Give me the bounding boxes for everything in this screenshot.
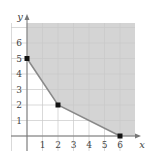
x-tick-label: 4: [86, 140, 92, 150]
vertex-point: [25, 56, 30, 61]
y-axis-arrow-icon: [25, 14, 30, 20]
y-tick-label: 6: [16, 38, 22, 48]
y-tick-label: 3: [16, 85, 22, 95]
y-tick-label: 2: [16, 100, 22, 110]
shaded-region: [27, 23, 135, 136]
x-tick-label: 2: [55, 140, 61, 150]
vertex-point: [56, 103, 61, 108]
feasible-region-chart: 123456123456xy: [0, 0, 147, 162]
vertex-point: [118, 134, 123, 139]
x-tick-label: 1: [40, 140, 46, 150]
y-axis-label: y: [16, 11, 23, 22]
x-axis-arrow-icon: [135, 134, 141, 139]
y-tick-label: 1: [16, 116, 22, 126]
x-axis-label: x: [139, 139, 145, 150]
y-tick-label: 5: [16, 54, 22, 64]
y-tick-label: 4: [16, 69, 22, 79]
x-tick-label: 6: [117, 140, 123, 150]
x-tick-label: 5: [102, 140, 108, 150]
x-tick-label: 3: [71, 140, 77, 150]
